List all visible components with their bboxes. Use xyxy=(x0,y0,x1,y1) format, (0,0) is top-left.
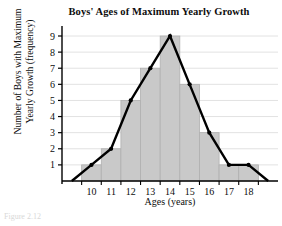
bar xyxy=(121,100,141,181)
bar xyxy=(82,165,102,181)
data-point-marker xyxy=(227,163,231,167)
figure-container: Boys' Ages of Maximum Yearly Growth Numb… xyxy=(0,0,282,226)
bar xyxy=(160,36,180,181)
y-tick-label: 6 xyxy=(50,79,55,90)
figure-caption: Figure 2.12 xyxy=(4,212,41,221)
data-point-marker xyxy=(246,163,250,167)
data-point-marker xyxy=(129,98,133,102)
data-point-marker xyxy=(89,163,93,167)
y-tick-label: 4 xyxy=(50,111,55,122)
y-tick-label: 8 xyxy=(50,47,55,58)
data-point-marker xyxy=(148,66,152,70)
y-tick-label: 7 xyxy=(50,63,55,74)
y-tick-label: 3 xyxy=(50,127,55,138)
x-axis-ticks: 101112131415161718 xyxy=(82,181,259,197)
x-axis-label: Ages (years) xyxy=(60,196,280,207)
data-point-marker xyxy=(109,147,113,151)
data-point-marker xyxy=(168,34,172,38)
bar xyxy=(239,165,259,181)
bar-series xyxy=(82,36,259,181)
y-tick-label: 2 xyxy=(50,143,55,154)
y-tick-label: 9 xyxy=(50,31,55,42)
bar xyxy=(199,133,219,181)
data-point-marker xyxy=(207,131,211,135)
y-tick-label: 1 xyxy=(50,159,55,170)
y-axis-ticks: 123456789 xyxy=(50,31,62,171)
y-tick-label: 5 xyxy=(50,95,55,106)
data-point-marker xyxy=(188,82,192,86)
bar xyxy=(141,68,161,181)
chart-plot: 123456789101112131415161718 xyxy=(0,0,282,226)
bar xyxy=(219,165,239,181)
